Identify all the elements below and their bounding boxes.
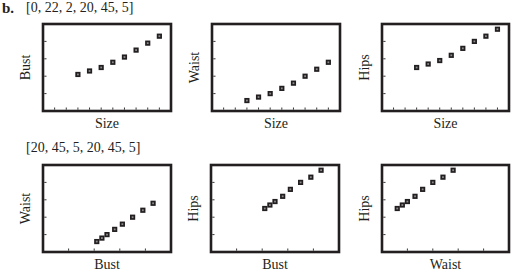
data-point-marker-center [320,169,322,171]
plot-frame [43,165,171,252]
data-point-marker-center [269,93,271,95]
x-axis-label: Size [95,116,119,131]
data-point-marker-center [121,223,123,225]
data-point-marker-center [304,75,306,77]
data-point-marker-center [300,182,302,184]
data-point-marker-center [77,74,79,76]
data-point-marker-center [106,234,108,236]
data-point-marker-center [135,49,137,51]
data-point-marker-center [450,54,452,56]
data-point-marker-center [327,61,329,63]
data-point-marker-center [293,82,295,84]
data-point-marker-center [401,204,403,206]
data-point-marker-center [396,208,398,210]
y-axis-label: Hips [186,195,201,221]
data-point-marker-center [439,60,441,62]
data-point-marker-center [89,70,91,72]
data-point-marker-center [132,216,134,218]
y-axis-label: Hips [357,195,372,221]
scatter-panel-hips-vs-waist: WaistHips [357,165,509,272]
data-point-marker-center [485,35,487,37]
plot-frame [43,24,171,111]
data-point-marker-center [407,201,409,203]
scatter-panel-hips-vs-size: SizeHips [357,24,509,131]
data-point-marker-center [114,228,116,230]
data-point-marker-center [147,42,149,44]
data-point-marker-center [101,237,103,239]
data-point-marker-center [158,35,160,37]
data-point-marker-center [462,47,464,49]
y-axis-label: Bust [18,55,33,81]
data-point-marker-center [258,96,260,98]
data-point-marker-center [246,100,248,102]
data-point-marker-center [497,28,499,30]
data-point-marker-center [316,68,318,70]
data-point-marker-center [152,202,154,204]
data-point-marker-center [442,176,444,178]
x-axis-label: Bust [94,257,120,272]
y-axis-label: Waist [18,193,33,225]
data-point-marker-center [124,56,126,58]
x-axis-label: Waist [430,257,462,272]
data-point-marker-center [427,63,429,65]
scatter-panel-bust-vs-size: SizeBust [18,24,171,131]
data-point-marker-center [422,188,424,190]
scatter-panel-waist-vs-bust: BustWaist [18,165,171,272]
data-point-marker-center [452,169,454,171]
x-axis-label: Size [264,116,288,131]
plot-frame [211,165,339,252]
x-axis-label: Bust [262,257,288,272]
x-axis-label: Size [433,116,457,131]
plot-frame [212,24,340,111]
data-point-marker-center [310,176,312,178]
data-point-marker-center [473,41,475,43]
data-point-marker-center [96,241,98,243]
scatter-panel-waist-vs-size: SizeWaist [187,24,340,131]
data-point-marker-center [414,195,416,197]
data-point-marker-center [100,67,102,69]
data-point-marker-center [289,188,291,190]
data-point-marker-center [274,201,276,203]
data-point-marker-center [112,61,114,63]
scatter-panel-hips-vs-bust: BustHips [186,165,339,272]
data-point-marker-center [264,208,266,210]
plot-frame [382,24,509,111]
scatter-plot-grid: SizeBustSizeWaistSizeHipsBustWaistBustHi… [0,0,515,277]
data-point-marker-center [142,209,144,211]
data-point-marker-center [282,195,284,197]
y-axis-label: Hips [357,54,372,80]
data-point-marker-center [281,87,283,89]
data-point-marker-center [416,67,418,69]
y-axis-label: Waist [187,52,202,84]
data-point-marker-center [269,204,271,206]
data-point-marker-center [432,182,434,184]
